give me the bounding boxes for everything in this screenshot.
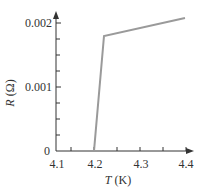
x-tick-label: 4.2	[88, 157, 103, 171]
y-tick-label: 0.002	[25, 16, 52, 30]
y-axis-title: R (Ω)	[3, 79, 17, 107]
x-tick-label: 4.4	[179, 157, 194, 171]
y-axis-unit: (Ω)	[3, 79, 17, 96]
y-tick-label: 0	[44, 144, 50, 158]
x-axis-unit: (K)	[115, 173, 132, 187]
x-tick-label: 4.3	[134, 157, 149, 171]
y-axis-var: R	[3, 99, 17, 108]
x-axis-arrow-icon	[186, 148, 194, 154]
resistance-line	[94, 18, 185, 151]
x-axis-var: T	[105, 173, 113, 187]
x-ticks	[71, 147, 186, 151]
chart: 4.1 4.2 4.3 4.4 0 0.001 0.002 T (K) R (Ω…	[0, 0, 208, 192]
y-ticks	[56, 23, 61, 135]
y-tick-label: 0.001	[25, 80, 52, 94]
y-axis-arrow-icon	[53, 11, 59, 19]
x-tick-label: 4.1	[50, 157, 65, 171]
x-axis-title: T (K)	[105, 173, 131, 187]
